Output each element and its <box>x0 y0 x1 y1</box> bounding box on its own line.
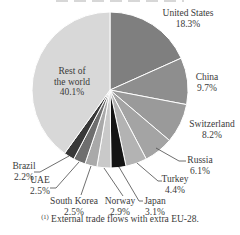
slice-label-switzerland: Switzerland 8.2% <box>180 119 240 140</box>
slice-pct: 2.2% <box>1 172 47 183</box>
slice-pct: 40.1% <box>38 87 106 98</box>
slice-label-brazil: Brazil 2.2% <box>1 161 47 182</box>
leader-line-norway <box>104 168 123 196</box>
slice-pct: 18.3% <box>150 19 226 30</box>
footnote-marker: (1) <box>41 213 49 220</box>
slice-name: Switzerland <box>180 119 240 130</box>
slice-label-united-states: United States 18.3% <box>150 8 226 29</box>
footnote-text: External trade flows with extra EU-28. <box>51 214 199 224</box>
slice-name: China <box>183 72 231 83</box>
slice-label-rest-of-the-world: Rest of the world 40.1% <box>38 66 106 98</box>
slice-name: Brazil <box>1 161 47 172</box>
slice-label-russia: Russia 6.1% <box>176 155 224 176</box>
slice-name: Russia <box>176 155 224 166</box>
leader-line-south-korea <box>81 166 91 195</box>
slice-label-china: China 9.7% <box>183 72 231 93</box>
slice-pct: 4.4% <box>151 185 199 196</box>
slice-pct: 2.5% <box>17 186 63 197</box>
slice-pct: 9.7% <box>183 83 231 94</box>
slice-name: South Korea <box>36 196 112 207</box>
slice-name-line-2: the world <box>38 77 106 88</box>
slice-name: Turkey <box>151 174 199 185</box>
pie-chart-figure: United States 18.3% China 9.7% Switzerla… <box>0 0 240 235</box>
slice-label-turkey: Turkey 4.4% <box>151 174 199 195</box>
figure-footnote: (1) External trade flows with extra EU-2… <box>0 213 240 224</box>
slice-pct: 8.2% <box>180 130 240 141</box>
slice-name: United States <box>150 8 226 19</box>
slice-name-line-1: Rest of <box>38 66 106 77</box>
